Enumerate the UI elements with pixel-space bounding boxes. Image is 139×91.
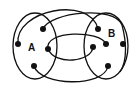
point-b-1 [103, 41, 109, 47]
point-a-0 [15, 41, 21, 47]
point-a-2 [45, 46, 51, 52]
edge-a2-b3 [48, 47, 93, 60]
edge-a3-b4 [34, 66, 108, 82]
point-a-1 [40, 26, 46, 32]
set-b-label: B [108, 28, 115, 39]
edge-a0-b0 [18, 10, 98, 44]
point-a-3 [31, 63, 37, 69]
point-b-4 [105, 63, 111, 69]
point-b-3 [90, 44, 96, 50]
set-a-label: A [28, 42, 35, 53]
set-diagram: A B [0, 0, 139, 91]
point-b-0 [95, 26, 101, 32]
point-b-2 [120, 41, 126, 47]
